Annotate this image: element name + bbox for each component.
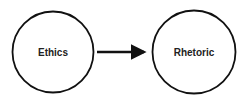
node-rhetoric: Rhetoric	[153, 11, 236, 94]
node-ethics: Ethics	[13, 12, 94, 93]
ethics-label: Ethics	[38, 47, 68, 58]
rhetoric-label: Rhetoric	[174, 47, 215, 58]
diagram-canvas: Ethics Rhetoric	[0, 0, 242, 101]
